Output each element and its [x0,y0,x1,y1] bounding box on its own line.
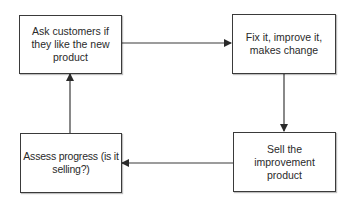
node-ask-customers: Ask customers if they like the new produ… [19,15,122,74]
node-label: Fix it, improve it, makes change [233,31,335,57]
node-sell-improvement: Sell the improvement product [233,132,336,192]
node-label: Sell the improvement product [234,143,335,182]
node-assess-progress: Assess progress (is it selling?) [20,133,122,193]
node-label: Ask customers if they like the new produ… [20,25,121,64]
node-fix-improve: Fix it, improve it, makes change [232,14,336,74]
node-label: Assess progress (is it selling?) [21,150,121,176]
